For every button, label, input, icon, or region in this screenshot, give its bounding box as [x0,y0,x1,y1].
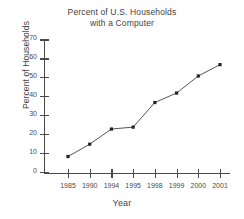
data-point-marker [88,143,91,146]
y-axis-title: Percent of Households [21,0,31,140]
data-point-marker [132,126,135,129]
data-point-marker [66,155,69,158]
x-tick-label: 1995 [125,182,141,189]
y-tick-label: 30 [29,110,37,117]
data-point-marker [197,74,200,77]
y-tick-label: 60 [29,53,37,60]
chart-title: Percent of U.S. Households with a Comput… [0,7,244,29]
y-tick-label: 0 [33,167,37,174]
y-tick-label: 20 [29,129,37,136]
chart-container: Percent of U.S. Households with a Comput… [0,0,244,219]
x-tick-label: 2001 [212,182,228,189]
plot-area: 010203040506070 198519901994199519981999… [44,40,230,174]
data-series-line [44,40,230,174]
x-tick-label: 1990 [82,182,98,189]
y-tick-label: 40 [29,91,37,98]
chart-title-line-1: Percent of U.S. Households [0,7,244,18]
data-point-marker [218,63,221,66]
x-tick-label: 1994 [104,182,120,189]
data-point-marker [153,101,156,104]
x-tick-label: 1998 [147,182,163,189]
data-point-marker [175,91,178,94]
x-tick-label: 1999 [169,182,185,189]
x-tick-label: 1985 [60,182,76,189]
chart-title-line-2: with a Computer [0,18,244,29]
y-tick-label: 50 [29,72,37,79]
y-tick-label: 70 [29,34,37,41]
x-axis-title: Year [0,198,244,208]
data-point-marker [110,127,113,130]
x-tick-label: 2000 [190,182,206,189]
y-tick-label: 10 [29,148,37,155]
